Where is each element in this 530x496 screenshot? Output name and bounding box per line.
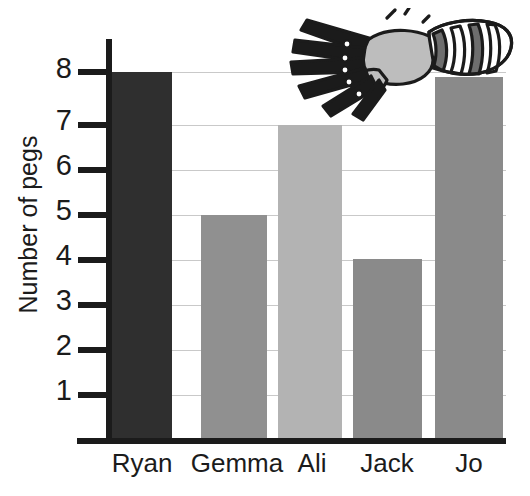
x-axis-line: [77, 438, 506, 444]
y-tick-mark-3: [78, 302, 108, 308]
plot-area: [112, 40, 506, 443]
y-tick-mark-2: [78, 347, 108, 353]
bar-gemma: [201, 215, 267, 443]
y-axis-line: [106, 39, 112, 444]
y-tick-mark-8: [78, 69, 108, 75]
bar-ali: [278, 125, 342, 443]
y-tick-mark-6: [78, 167, 108, 173]
bar-jack: [353, 259, 422, 443]
y-tick-label-1: 1: [32, 376, 72, 405]
x-label-jack: Jack: [346, 450, 428, 476]
x-label-ryan: Ryan: [102, 450, 182, 476]
y-tick-mark-5: [78, 212, 108, 218]
y-tick-label-2: 2: [32, 331, 72, 360]
y-tick-label-8: 8: [32, 54, 72, 83]
y-tick-mark-7: [78, 122, 108, 128]
bar-ryan: [112, 72, 172, 443]
y-axis-title: Number of pegs: [14, 115, 43, 335]
bar-chart-screenshot: 8 7 6 5 4 3 2 1 Number of pegs Ryan Gemm…: [0, 0, 530, 496]
y-tick-mark-4: [78, 257, 108, 263]
x-label-jo: Jo: [437, 450, 501, 476]
y-tick-mark-1: [78, 392, 108, 398]
x-label-gemma: Gemma: [184, 450, 290, 476]
x-label-ali: Ali: [281, 450, 343, 476]
bar-jo: [435, 77, 503, 443]
